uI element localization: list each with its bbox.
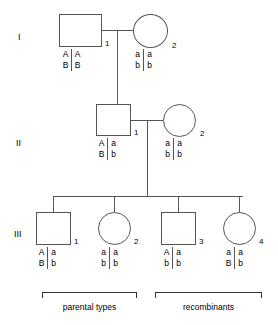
generation-label-1: I bbox=[18, 33, 21, 42]
allele-top-left: A bbox=[63, 49, 69, 60]
individual-III-3-genotype: A b a b bbox=[162, 247, 183, 269]
allele-top-right: a bbox=[111, 138, 116, 149]
allele-top-left: A bbox=[39, 247, 45, 258]
allele-top-right: a bbox=[113, 247, 118, 258]
individual-III-1-genotype: A B a b bbox=[37, 247, 58, 269]
allele-top-left: A bbox=[99, 138, 105, 149]
individual-III-2-symbol bbox=[98, 212, 131, 245]
individual-II-1-symbol bbox=[96, 104, 131, 136]
individual-II-1-number: 1 bbox=[134, 129, 138, 137]
allele-bottom-left: B bbox=[39, 258, 45, 269]
generation-label-2: II bbox=[16, 139, 21, 148]
allele-top-right: a bbox=[147, 49, 152, 60]
individual-I-1-symbol bbox=[59, 14, 102, 47]
allele-bottom-left: b bbox=[165, 149, 170, 160]
allele-top-right: a bbox=[176, 247, 181, 258]
individual-II-2-symbol bbox=[163, 104, 196, 137]
sibline-drop-III-3 bbox=[178, 196, 179, 212]
allele-top-left: a bbox=[101, 247, 106, 258]
allele-bottom-right: b bbox=[147, 60, 152, 71]
allele-bottom-right: b bbox=[111, 149, 116, 160]
allele-bottom-left: B bbox=[226, 258, 232, 269]
chromosome-bar bbox=[173, 138, 174, 160]
pedigree-diagram: I II III 1 A B A B 2 a b a b 1 bbox=[0, 0, 278, 325]
allele-bottom-left: B bbox=[63, 60, 69, 71]
individual-III-1-number: 1 bbox=[74, 238, 78, 246]
descent-line-gen1-to-gen2 bbox=[117, 30, 118, 110]
allele-top-left: A bbox=[164, 247, 170, 258]
sibline-drop-III-4 bbox=[239, 196, 240, 212]
individual-III-4-symbol bbox=[223, 212, 256, 245]
individual-III-1-symbol bbox=[36, 212, 71, 245]
allele-bottom-left: b bbox=[135, 60, 140, 71]
allele-top-right: A bbox=[75, 49, 81, 60]
allele-top-left: a bbox=[226, 247, 231, 258]
individual-I-1-genotype: A B A B bbox=[61, 49, 82, 71]
individual-I-1-number: 1 bbox=[105, 40, 109, 48]
individual-I-2-number: 2 bbox=[172, 42, 176, 50]
generation-label-3: III bbox=[14, 230, 22, 239]
chromosome-bar bbox=[71, 49, 72, 71]
descent-line-gen2-to-gen3 bbox=[147, 120, 148, 196]
sibline-drop-III-1 bbox=[53, 196, 54, 212]
bracket-parental-types bbox=[42, 292, 137, 298]
individual-III-2-genotype: a b a b bbox=[99, 247, 120, 269]
chromosome-bar bbox=[47, 247, 48, 269]
individual-III-4-genotype: a B a b bbox=[224, 247, 245, 269]
individual-II-2-genotype: a b a b bbox=[163, 138, 184, 160]
individual-III-2-number: 2 bbox=[134, 238, 138, 246]
sibship-line-gen3 bbox=[53, 196, 243, 197]
individual-III-3-number: 3 bbox=[199, 238, 203, 246]
individual-II-2-number: 2 bbox=[200, 130, 204, 138]
allele-top-right: a bbox=[177, 138, 182, 149]
bracket-label-recombinants: recombinants bbox=[155, 303, 262, 312]
allele-bottom-right: b bbox=[51, 258, 56, 269]
individual-I-2-symbol bbox=[133, 14, 168, 48]
bracket-label-parental-types: parental types bbox=[42, 303, 137, 312]
individual-I-2-genotype: a b a b bbox=[133, 49, 154, 71]
chromosome-bar bbox=[172, 247, 173, 269]
allele-top-left: a bbox=[165, 138, 170, 149]
allele-bottom-right: b bbox=[238, 258, 243, 269]
individual-II-1-genotype: A B a b bbox=[97, 138, 118, 160]
allele-bottom-right: B bbox=[75, 60, 81, 71]
sibline-drop-III-2 bbox=[114, 196, 115, 212]
individual-III-3-symbol bbox=[161, 212, 196, 245]
individual-III-4-number: 4 bbox=[259, 238, 263, 246]
bracket-recombinants bbox=[155, 292, 262, 298]
chromosome-bar bbox=[109, 247, 110, 269]
allele-bottom-left: b bbox=[164, 258, 169, 269]
allele-bottom-left: b bbox=[101, 258, 106, 269]
chromosome-bar bbox=[143, 49, 144, 71]
allele-bottom-right: b bbox=[176, 258, 181, 269]
allele-top-right: a bbox=[238, 247, 243, 258]
allele-top-left: a bbox=[135, 49, 140, 60]
allele-bottom-right: b bbox=[113, 258, 118, 269]
chromosome-bar bbox=[234, 247, 235, 269]
chromosome-bar bbox=[107, 138, 108, 160]
allele-bottom-right: b bbox=[177, 149, 182, 160]
allele-bottom-left: B bbox=[99, 149, 105, 160]
allele-top-right: a bbox=[51, 247, 56, 258]
